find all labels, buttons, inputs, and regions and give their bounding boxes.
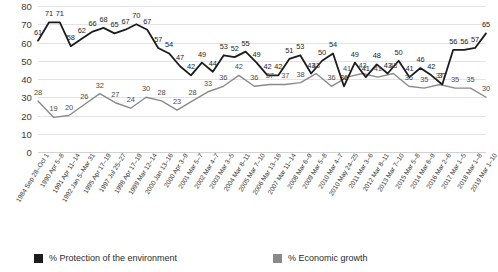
data-label-economy: 32 xyxy=(96,80,104,89)
series-lines xyxy=(38,6,486,152)
data-label-environment: 47 xyxy=(176,53,184,62)
data-label-economy: 35 xyxy=(451,75,459,84)
data-label-environment: 54 xyxy=(165,40,173,49)
data-label-economy: 35 xyxy=(467,75,475,84)
y-axis-tick-label: 10 xyxy=(21,128,32,139)
data-label-environment: 67 xyxy=(143,16,151,25)
data-label-environment: 36 xyxy=(340,73,348,82)
data-label-environment: 61 xyxy=(34,27,42,36)
data-label-environment: 49 xyxy=(351,49,359,58)
x-axis: 1984 Sep 28–Oct 11990 Apr 5–81991 Apr 11… xyxy=(38,152,486,244)
data-label-environment: 52 xyxy=(231,44,239,53)
data-label-environment: 58 xyxy=(67,33,75,42)
data-label-economy: 36 xyxy=(405,73,413,82)
data-label-environment: 70 xyxy=(132,11,140,20)
legend-item-environment: % Protection of the environment xyxy=(34,253,177,263)
data-label-economy: 37 xyxy=(281,71,289,80)
y-axis-tick-label: 0 xyxy=(27,147,32,158)
data-label-economy: 27 xyxy=(111,89,119,98)
data-label-economy: 20 xyxy=(65,102,73,111)
data-label-economy: 42 xyxy=(235,62,243,71)
data-label-environment: 42 xyxy=(427,62,435,71)
legend-item-economy: % Economic growth xyxy=(273,253,368,263)
data-label-economy: 28 xyxy=(34,87,42,96)
data-label-economy: 43 xyxy=(389,60,397,69)
data-label-environment: 57 xyxy=(471,34,479,43)
y-axis-tick-label: 20 xyxy=(21,110,32,121)
data-label-economy: 23 xyxy=(173,97,181,106)
data-label-economy: 19 xyxy=(49,104,57,113)
legend-swatch-economy-icon xyxy=(273,254,282,263)
data-label-environment: 44 xyxy=(209,58,217,67)
chart-legend: % Protection of the environment % Econom… xyxy=(34,249,474,267)
data-label-environment: 42 xyxy=(187,62,195,71)
data-label-environment: 48 xyxy=(373,51,381,60)
data-label-environment: 50 xyxy=(395,47,403,56)
data-label-economy: 30 xyxy=(482,84,490,93)
data-label-economy: 38 xyxy=(297,69,305,78)
data-label-economy: 37 xyxy=(266,71,274,80)
line-economic-growth xyxy=(38,74,486,118)
data-label-environment: 71 xyxy=(45,9,53,18)
data-label-economy: 28 xyxy=(188,87,196,96)
data-label-environment: 46 xyxy=(416,55,424,64)
data-label-economy: 28 xyxy=(158,87,166,96)
data-label-environment: 54 xyxy=(329,40,337,49)
data-label-environment: 71 xyxy=(56,9,64,18)
data-label-economy: 36 xyxy=(219,73,227,82)
data-label-environment: 68 xyxy=(100,14,108,23)
data-label-environment: 51 xyxy=(285,45,293,54)
y-axis-tick-label: 80 xyxy=(21,1,32,12)
data-label-environment: 53 xyxy=(220,42,228,51)
data-label-environment: 65 xyxy=(482,20,490,29)
data-label-environment: 66 xyxy=(89,18,97,27)
data-label-economy: 37 xyxy=(436,71,444,80)
y-axis-tick-label: 60 xyxy=(21,37,32,48)
data-label-economy: 36 xyxy=(250,73,258,82)
data-label-environment: 57 xyxy=(154,34,162,43)
data-label-environment: 56 xyxy=(449,36,457,45)
data-label-environment: 42 xyxy=(263,62,271,71)
data-label-economy: 30 xyxy=(142,84,150,93)
data-label-economy: 36 xyxy=(328,73,336,82)
data-label-environment: 65 xyxy=(110,20,118,29)
data-label-environment: 62 xyxy=(78,25,86,34)
data-label-environment: 50 xyxy=(318,47,326,56)
data-label-economy: 24 xyxy=(127,95,135,104)
y-axis: 01020304050607080 xyxy=(0,6,36,152)
legend-swatch-environment-icon xyxy=(34,254,43,263)
data-label-environment: 53 xyxy=(296,42,304,51)
data-label-economy: 35 xyxy=(420,75,428,84)
data-label-economy: 41 xyxy=(343,64,351,73)
legend-label-environment: % Protection of the environment xyxy=(49,253,177,263)
y-axis-tick-label: 50 xyxy=(21,55,32,66)
data-label-environment: 67 xyxy=(121,16,129,25)
data-label-economy: 26 xyxy=(80,91,88,100)
data-label-environment: 49 xyxy=(198,49,206,58)
data-label-environment: 41 xyxy=(405,64,413,73)
data-label-environment: 49 xyxy=(253,49,261,58)
data-label-environment: 42 xyxy=(274,62,282,71)
legend-label-economy: % Economic growth xyxy=(288,253,368,263)
data-label-economy: 43 xyxy=(358,60,366,69)
y-axis-tick-label: 70 xyxy=(21,19,32,30)
y-axis-tick-label: 40 xyxy=(21,74,32,85)
y-axis-tick-label: 30 xyxy=(21,92,32,103)
data-label-economy: 33 xyxy=(204,78,212,87)
data-label-environment: 56 xyxy=(460,36,468,45)
data-label-economy: 41 xyxy=(374,64,382,73)
plot-area: 6171715862666865677067575447424944535255… xyxy=(38,6,486,152)
data-label-economy: 43 xyxy=(312,60,320,69)
data-label-environment: 55 xyxy=(242,38,250,47)
